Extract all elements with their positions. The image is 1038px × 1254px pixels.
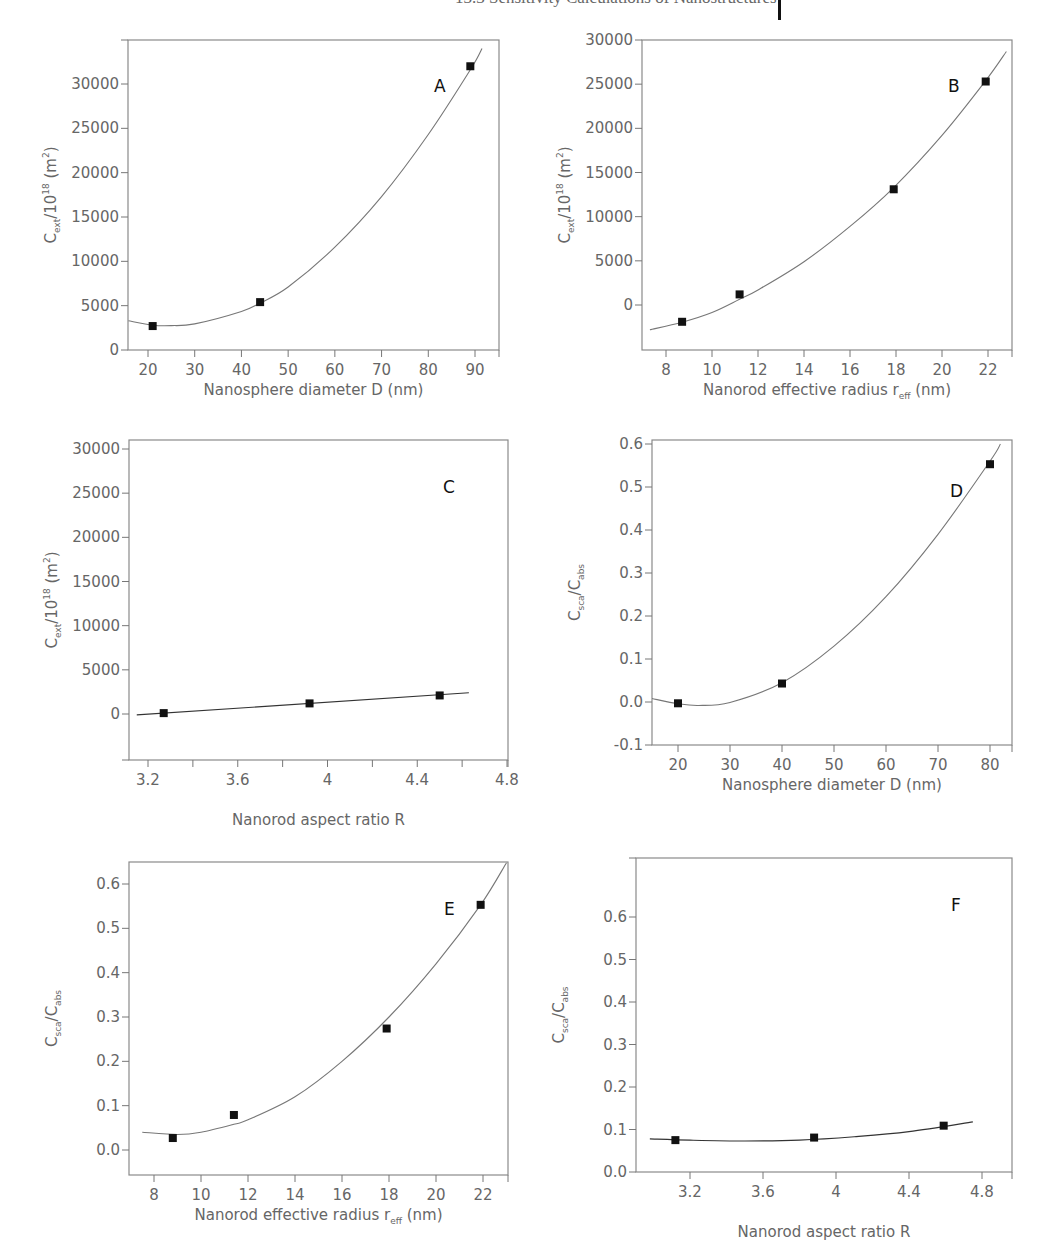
panel-letter: B bbox=[948, 76, 960, 96]
x-tick-label: 18 bbox=[886, 361, 905, 379]
y-tick-label: 5000 bbox=[82, 661, 120, 679]
y-tick-label: 30000 bbox=[72, 440, 120, 458]
x-tick-label: 4.4 bbox=[897, 1183, 921, 1201]
y-tick-label: 25000 bbox=[585, 75, 633, 93]
y-tick-label: 0.0 bbox=[603, 1163, 627, 1181]
fit-curve bbox=[137, 693, 469, 715]
y-tick-label: 5000 bbox=[595, 252, 633, 270]
y-axis: 050001000015000200002500030000 bbox=[585, 31, 642, 314]
y-axis-label: Csca/Cabs bbox=[566, 564, 586, 621]
data-point-marker bbox=[477, 901, 485, 909]
x-axis-label: Nanorod aspect ratio R bbox=[738, 1223, 911, 1241]
x-tick-label: 50 bbox=[279, 361, 298, 379]
y-tick-label: -0.1 bbox=[614, 736, 643, 754]
x-axis-label: Nanorod aspect ratio R bbox=[232, 811, 405, 829]
data-point-marker bbox=[256, 298, 264, 306]
data-point-marker bbox=[810, 1134, 818, 1142]
x-tick-label: 18 bbox=[379, 1186, 398, 1204]
y-tick-label: 0.1 bbox=[96, 1097, 120, 1115]
panel-letter: E bbox=[444, 899, 455, 919]
x-tick-label: 8 bbox=[149, 1186, 159, 1204]
x-axis-label: Nanorod effective radius reff (nm) bbox=[703, 381, 951, 401]
data-point-marker bbox=[436, 691, 444, 699]
x-tick-label: 60 bbox=[876, 756, 895, 774]
y-tick-label: 5000 bbox=[81, 297, 119, 315]
x-tick-label: 80 bbox=[980, 756, 999, 774]
x-tick-label: 4.8 bbox=[970, 1183, 994, 1201]
x-tick-label: 4 bbox=[323, 771, 333, 789]
chart-panel-e: 0.00.10.20.30.40.50.6810121416182022Nano… bbox=[43, 862, 508, 1226]
data-point-marker bbox=[940, 1122, 948, 1130]
chart-panel-f: 0.00.10.20.30.40.50.63.23.644.44.8Nanoro… bbox=[550, 858, 1012, 1241]
x-tick-label: 12 bbox=[748, 361, 767, 379]
y-tick-label: 25000 bbox=[71, 119, 119, 137]
y-tick-label: 0.2 bbox=[603, 1078, 627, 1096]
x-tick-label: 3.2 bbox=[678, 1183, 702, 1201]
x-tick-label: 70 bbox=[928, 756, 947, 774]
y-tick-label: 30000 bbox=[71, 75, 119, 93]
x-tick-label: 22 bbox=[978, 361, 997, 379]
x-axis: 810121416182022 bbox=[149, 1175, 508, 1204]
y-tick-label: 0.2 bbox=[619, 607, 643, 625]
y-tick-label: 0.4 bbox=[96, 964, 120, 982]
y-axis-label: Cext/1018 (m2) bbox=[555, 146, 576, 243]
data-point-marker bbox=[678, 318, 686, 326]
y-tick-label: 0.1 bbox=[619, 650, 643, 668]
y-tick-label: 10000 bbox=[71, 252, 119, 270]
data-point-marker bbox=[160, 709, 168, 717]
data-point-marker bbox=[986, 460, 994, 468]
x-tick-label: 40 bbox=[772, 756, 791, 774]
x-tick-label: 10 bbox=[191, 1186, 210, 1204]
x-tick-label: 60 bbox=[325, 361, 344, 379]
data-points bbox=[674, 460, 994, 707]
data-point-marker bbox=[306, 699, 314, 707]
x-tick-label: 10 bbox=[702, 361, 721, 379]
x-tick-label: 80 bbox=[419, 361, 438, 379]
y-tick-label: 15000 bbox=[72, 573, 120, 591]
data-point-marker bbox=[890, 185, 898, 193]
x-axis: 3.23.644.44.8 bbox=[678, 1172, 1012, 1201]
data-point-marker bbox=[383, 1025, 391, 1033]
x-tick-label: 3.2 bbox=[136, 771, 160, 789]
data-point-marker bbox=[674, 699, 682, 707]
y-tick-label: 15000 bbox=[585, 164, 633, 182]
y-tick-label: 0.0 bbox=[96, 1141, 120, 1159]
y-axis-label: Cext/1018 (m2) bbox=[41, 146, 62, 243]
x-axis: 3.23.644.44.8 bbox=[136, 760, 519, 789]
y-tick-label: 0.5 bbox=[619, 478, 643, 496]
panel-letter: C bbox=[443, 477, 455, 497]
x-axis-label: Nanosphere diameter D (nm) bbox=[722, 776, 942, 794]
panel-letter: D bbox=[950, 481, 963, 501]
y-tick-label: 0.5 bbox=[603, 951, 627, 969]
x-tick-label: 30 bbox=[185, 361, 204, 379]
x-tick-label: 14 bbox=[794, 361, 813, 379]
fit-curve bbox=[652, 444, 1000, 705]
data-points bbox=[149, 62, 475, 330]
y-tick-label: 25000 bbox=[72, 484, 120, 502]
y-tick-label: 0 bbox=[623, 296, 633, 314]
y-tick-label: 20000 bbox=[72, 528, 120, 546]
y-axis-label: Csca/Cabs bbox=[43, 990, 63, 1047]
y-tick-label: 30000 bbox=[585, 31, 633, 49]
y-tick-label: 0.1 bbox=[603, 1121, 627, 1139]
x-tick-label: 16 bbox=[840, 361, 859, 379]
x-tick-label: 8 bbox=[661, 361, 671, 379]
x-tick-label: 3.6 bbox=[226, 771, 250, 789]
x-tick-label: 3.6 bbox=[751, 1183, 775, 1201]
y-tick-label: 15000 bbox=[71, 208, 119, 226]
y-tick-label: 0.6 bbox=[96, 875, 120, 893]
x-tick-label: 4.8 bbox=[495, 771, 519, 789]
data-point-marker bbox=[169, 1134, 177, 1142]
y-tick-label: 0 bbox=[110, 705, 120, 723]
x-tick-label: 4 bbox=[831, 1183, 841, 1201]
x-tick-label: 90 bbox=[465, 361, 484, 379]
x-tick-label: 20 bbox=[932, 361, 951, 379]
x-tick-label: 14 bbox=[285, 1186, 304, 1204]
panel-letter: F bbox=[951, 895, 961, 915]
x-tick-label: 20 bbox=[668, 756, 687, 774]
y-tick-label: 0.6 bbox=[619, 435, 643, 453]
x-axis: 810121416182022 bbox=[661, 350, 1012, 379]
x-tick-label: 40 bbox=[232, 361, 251, 379]
y-tick-label: 10000 bbox=[72, 617, 120, 635]
chart-panel-d: -0.10.00.10.20.30.40.50.620304050607080N… bbox=[566, 435, 1012, 794]
